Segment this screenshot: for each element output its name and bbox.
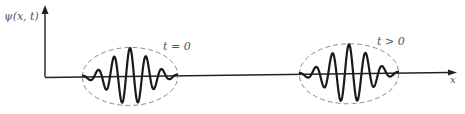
y-axis-arrow-icon [42, 5, 49, 14]
wave-packet-diagram: ψ(x, t) x t = 0 t > 0 [0, 0, 465, 114]
y-axis-label: ψ(x, t) [4, 10, 39, 23]
wave-packet-t-later: t > 0 [299, 35, 405, 104]
x-axis-label: x [450, 74, 456, 85]
packet-time-label: t > 0 [377, 35, 405, 48]
packet-time-label: t = 0 [163, 40, 191, 53]
wave-packet-t0: t = 0 [82, 40, 191, 105]
y-axis: ψ(x, t) [4, 5, 49, 77]
